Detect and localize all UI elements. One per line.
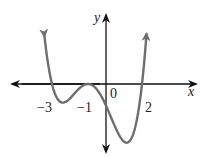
x-tick-label-2: 2 (145, 100, 152, 115)
polynomial-curve (44, 34, 146, 143)
x-axis-label: x (187, 84, 195, 99)
polynomial-graph: y x −3 −1 0 2 (0, 0, 209, 157)
x-tick-label-neg1: −1 (77, 100, 92, 115)
x-tick-label-neg3: −3 (37, 100, 52, 115)
y-axis-label: y (92, 10, 101, 25)
origin-label: 0 (110, 86, 117, 101)
